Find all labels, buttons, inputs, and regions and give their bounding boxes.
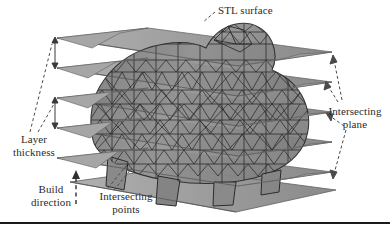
label-layer-thickness: Layer thickness <box>2 133 66 158</box>
layer-thickness-arrow-lower <box>52 97 58 129</box>
label-stl-surface: STL surface <box>218 4 273 17</box>
label-build-direction: Build direction <box>20 183 82 208</box>
layer-thickness-leaders <box>30 44 54 132</box>
stl-surface-leader <box>203 12 215 22</box>
label-intersecting-plane: Intersecting plane <box>322 105 388 130</box>
label-intersecting-points: Intersecting points <box>88 190 164 215</box>
layer-thickness-arrow-upper <box>52 37 58 69</box>
figure-bottom-rule <box>0 222 390 224</box>
